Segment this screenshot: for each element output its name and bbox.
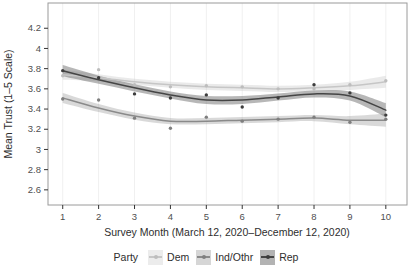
y-axis-title: Mean Trust (1–5 Scale) — [2, 49, 14, 158]
legend-label-rep: Rep — [279, 251, 298, 263]
trust-by-party-chart: 2.62.833.23.43.63.844.212345678910 Mean … — [0, 0, 412, 271]
svg-text:10: 10 — [381, 211, 392, 222]
svg-text:7: 7 — [275, 211, 280, 222]
legend-point-swatch — [266, 255, 270, 259]
svg-text:3.2: 3.2 — [28, 123, 41, 134]
legend-key-ind-othr — [196, 250, 211, 265]
legend-point-swatch — [154, 255, 158, 259]
svg-text:4.2: 4.2 — [28, 22, 41, 33]
svg-text:6: 6 — [240, 211, 245, 222]
svg-text:3.6: 3.6 — [28, 83, 41, 94]
svg-text:4: 4 — [168, 211, 173, 222]
svg-text:3.8: 3.8 — [28, 63, 41, 74]
svg-text:1: 1 — [60, 211, 65, 222]
legend-label-dem: Dem — [167, 251, 189, 263]
chart-canvas: 2.62.833.23.43.63.844.212345678910 Mean … — [0, 0, 412, 271]
svg-text:3: 3 — [36, 144, 41, 155]
legend-key-dem — [148, 250, 163, 265]
svg-text:9: 9 — [347, 211, 352, 222]
legend: Party Dem Ind/Othr Rep — [0, 246, 412, 268]
x-axis-title: Survey Month (March 12, 2020–December 12… — [104, 226, 350, 238]
svg-text:5: 5 — [204, 211, 209, 222]
svg-text:2.8: 2.8 — [28, 164, 41, 175]
legend-key-rep — [260, 250, 275, 265]
svg-text:2.6: 2.6 — [28, 184, 41, 195]
legend-title: Party — [114, 251, 139, 263]
legend-point-swatch — [202, 255, 206, 259]
svg-text:8: 8 — [311, 211, 316, 222]
svg-text:4: 4 — [36, 43, 41, 54]
svg-text:3.4: 3.4 — [28, 103, 41, 114]
svg-text:2: 2 — [96, 211, 101, 222]
legend-label-ind-othr: Ind/Othr — [215, 251, 253, 263]
svg-text:3: 3 — [132, 211, 137, 222]
confidence-ribbons — [63, 65, 386, 127]
